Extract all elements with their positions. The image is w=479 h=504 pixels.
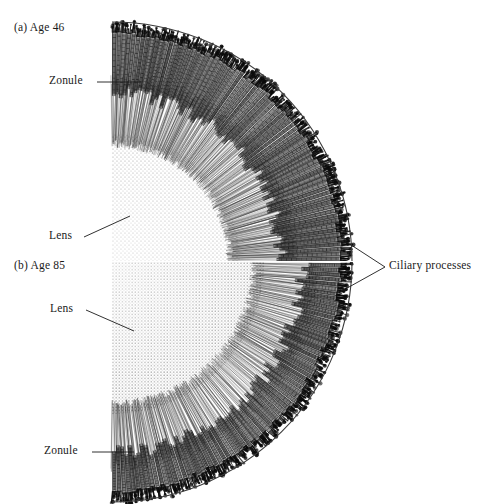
figure-container: (a) Age 46 Zonule Lens (b) Age 85 Lens Z… [0, 0, 479, 504]
panel-a-zonule-label: Zonule [49, 74, 83, 86]
ciliary-processes-label: Ciliary processes [389, 259, 471, 271]
panel-a-lens-label: Lens [49, 229, 72, 241]
panel-b-title: (b) Age 85 [14, 259, 65, 271]
panel-b-zonule-label: Zonule [44, 444, 78, 456]
panel-b-lens-label: Lens [50, 302, 73, 314]
panel-a-title: (a) Age 46 [14, 21, 65, 33]
